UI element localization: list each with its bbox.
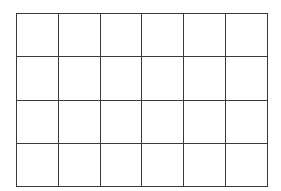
grid-cell — [226, 101, 268, 144]
grid-cell — [17, 14, 59, 57]
grid-cell — [17, 57, 59, 100]
grid-cell — [142, 57, 184, 100]
grid-cell — [17, 101, 59, 144]
empty-grid — [16, 13, 268, 187]
canvas — [0, 0, 281, 191]
grid-cell — [101, 144, 143, 187]
grid-cell — [59, 57, 101, 100]
grid-cell — [184, 14, 226, 57]
grid-cell — [184, 101, 226, 144]
grid-cell — [142, 14, 184, 57]
grid-cell — [101, 57, 143, 100]
grid-cell — [101, 14, 143, 57]
grid-cell — [59, 101, 101, 144]
grid-cell — [184, 144, 226, 187]
grid-cell — [226, 14, 268, 57]
grid-cell — [59, 14, 101, 57]
grid-cell — [101, 101, 143, 144]
grid-cell — [226, 144, 268, 187]
grid-cell — [59, 144, 101, 187]
grid-cell — [142, 101, 184, 144]
grid-cell — [226, 57, 268, 100]
grid-cell — [17, 144, 59, 187]
grid-cell — [142, 144, 184, 187]
grid-cell — [184, 57, 226, 100]
